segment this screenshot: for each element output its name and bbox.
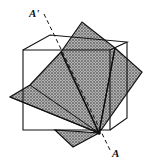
- shaded-face-bottom: [55, 130, 99, 147]
- cube-diagram: A' A: [0, 0, 151, 164]
- label-a-prime: A': [28, 7, 39, 19]
- axis-point: [97, 131, 101, 135]
- label-a: A: [111, 147, 119, 159]
